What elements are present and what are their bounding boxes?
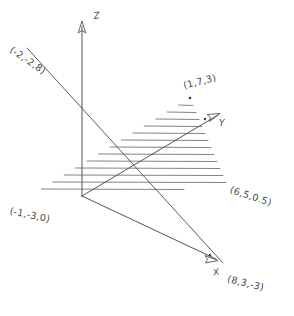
x-axis-line (82, 196, 216, 259)
vertex-dot-y-crossing (204, 118, 206, 120)
sketch-svg (0, 0, 294, 316)
vertex-dot-top (189, 97, 192, 100)
plane-triangle-outline (30, 98, 228, 196)
axis-label-z: Z (93, 10, 101, 21)
x-axis (82, 196, 218, 263)
figure-canvas: Z Y X (-2,-2,8) (1,7,3) (6,5,0.5) (-1,-3… (0, 0, 294, 316)
axis-label-y: Y (219, 118, 225, 128)
vertex-dot-x-crossing (209, 254, 211, 256)
